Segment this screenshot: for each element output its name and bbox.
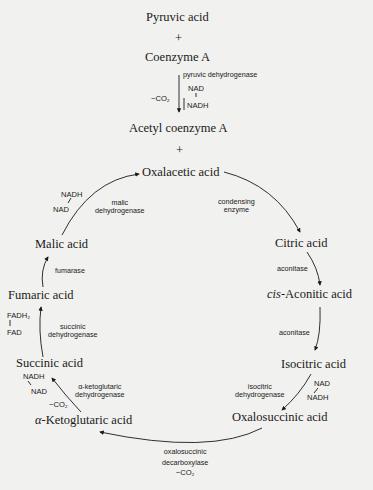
succinic-fad: FAD [7,328,22,337]
pyruvic-dehydrogenase-label: pyruvic dehydrogenase [183,71,257,79]
enzyme-malic-dehydrogenase: malicdehydrogenase [95,199,145,215]
akg-co2-label: −CO₂ [49,400,68,409]
isocitric-nad: NAD [314,379,330,388]
enzyme-isocitric-dehydrogenase: isocitricdehydrogenase [235,383,285,399]
plus-sign-2: + [176,143,183,158]
acetyl-coa-label: Acetyl coenzyme A [129,121,228,136]
pyruvic-acid-label: Pyruvic acid [146,10,209,25]
cis-prefix: cis- [267,287,285,301]
compound-cis-aconitic: cis-Aconitic acid [267,287,352,302]
enzyme-akg-dehydrogenase: α-ketoglutaricdehydrogenase [75,383,125,399]
coenzyme-a-label: Coenzyme A [145,50,210,65]
nad-label: NAD [188,84,204,93]
plus-sign: + [175,31,182,46]
enzyme-fumarase: fumarase [55,267,85,275]
malic-nadh: NADH [61,190,83,199]
compound-oxalosuccinic: Oxalosuccinic acid [232,410,327,425]
alpha-prefix: α- [35,413,46,427]
compound-isocitric: Isocitric acid [281,357,346,372]
malic-nad: NAD [53,205,69,214]
co2-label: −CO₂ [151,94,170,103]
enzyme-aconitase-1: aconitase [277,265,308,273]
compound-succinic: Succinic acid [16,356,83,371]
akg-nad: NAD [31,387,47,396]
compound-fumaric: Fumaric acid [8,288,74,303]
enzyme-succinic-dehydrogenase: succinicdehydrogenase [48,323,98,339]
compound-citric: Citric acid [275,236,327,251]
compound-alpha-ketoglutaric: α-Ketoglutaric acid [35,413,132,428]
nadh-label: NADH [187,101,209,110]
succinic-fadh2: FADH₂ [7,311,30,320]
enzyme-oxalosuccinic-decarboxylase: oxalosuccinicdecarboxylase−CO₂ [162,446,208,477]
compound-oxalacetic: Oxalacetic acid [142,165,219,180]
enzyme-aconitase-2: aconitase [279,329,310,337]
enzyme-condensing: condensingenzyme [218,198,255,214]
akg-nadh: NADH [23,372,45,381]
compound-malic: Malic acid [35,237,88,252]
isocitric-nadh: NADH [307,393,329,402]
